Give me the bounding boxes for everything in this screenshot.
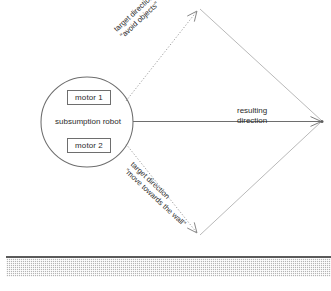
diagram-vector-layer: [0, 0, 331, 291]
wall-surface: [6, 256, 331, 277]
resulting-direction-label-line2: direction: [237, 116, 267, 126]
diagram-canvas: motor 1 motor 2 subsumption robot result…: [0, 0, 331, 291]
resulting-direction-label-line1: resulting: [237, 106, 267, 116]
motor-1-box: motor 1: [67, 90, 111, 105]
subsumption-robot-label: subsumption robot: [44, 117, 132, 127]
motor-2-box: motor 2: [67, 138, 111, 153]
resulting-direction-label: resulting direction: [237, 106, 267, 126]
construction-edge-lower: [200, 121, 322, 235]
vector-sum-vertex: [321, 120, 324, 123]
construction-edge-upper: [200, 9, 322, 121]
